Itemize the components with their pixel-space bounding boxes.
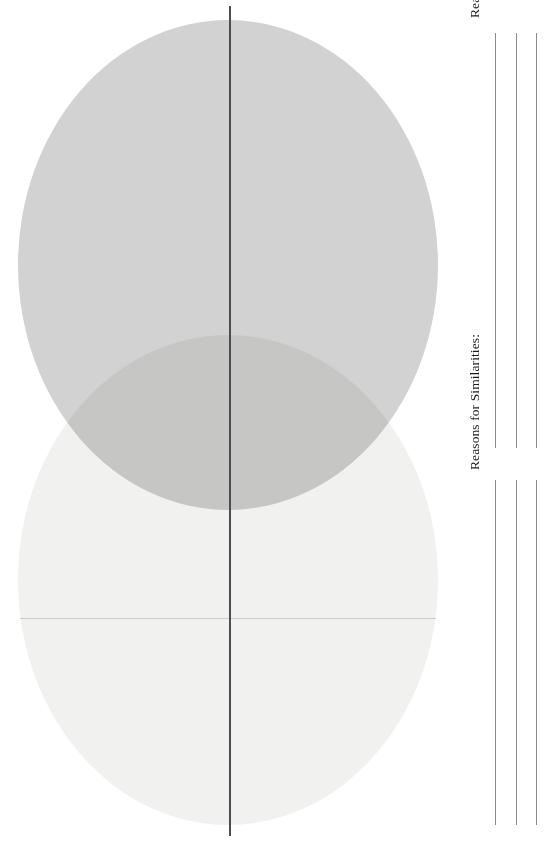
write-line-differences-2[interactable] (516, 33, 517, 448)
write-line-similarities-2[interactable] (516, 480, 517, 825)
prompt-label-differences: Reasons for Differences: (467, 0, 483, 18)
write-line-similarities-1[interactable] (495, 480, 496, 825)
prompt-group-similarities: Reasons for Similarities: (455, 470, 557, 840)
write-line-differences-3[interactable] (536, 33, 537, 448)
prompt-label-similarities: Reasons for Similarities: (467, 334, 483, 470)
venn-circle-b[interactable] (18, 335, 438, 825)
venn-center-divider-line (229, 6, 231, 836)
prompt-panel: Reasons for Differences: Reasons for Sim… (455, 0, 557, 847)
write-line-similarities-3[interactable] (536, 480, 537, 825)
scan-artifact-line (20, 618, 436, 619)
write-line-differences-1[interactable] (495, 33, 496, 448)
venn-diagram (0, 0, 460, 847)
venn-diagram-worksheet: Reasons for Differences: Reasons for Sim… (0, 0, 557, 847)
